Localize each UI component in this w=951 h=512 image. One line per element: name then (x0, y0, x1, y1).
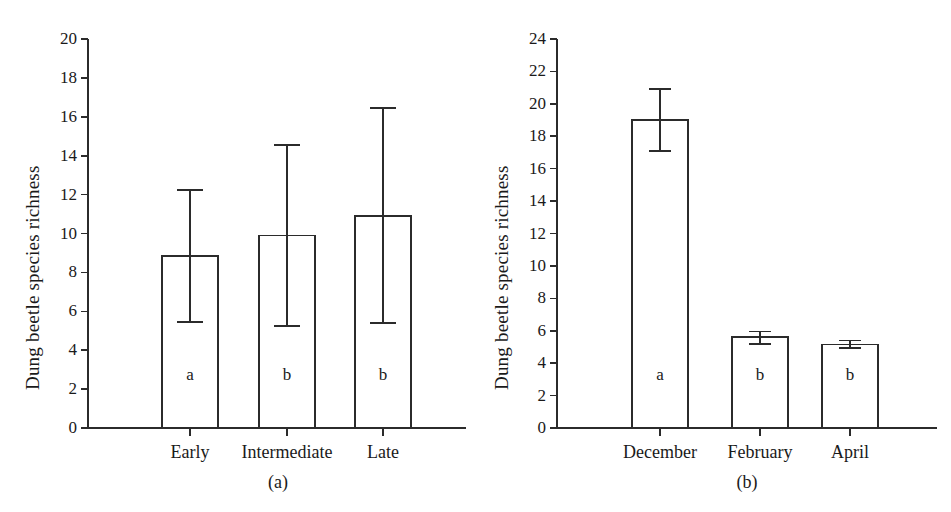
y-tick-label: 16 (60, 107, 77, 127)
y-tick-label: 12 (60, 185, 77, 205)
y-tick-label: 20 (60, 29, 77, 49)
x-tick-label: April (831, 442, 869, 463)
panel-caption-b: (b) (737, 472, 758, 493)
y-tick-label: 6 (69, 301, 78, 321)
x-tick-label: Late (367, 442, 399, 463)
y-tick-label: 6 (538, 321, 547, 341)
panel-caption-a: (a) (268, 472, 288, 493)
y-tick-label: 4 (538, 353, 547, 373)
significance-letter: b (846, 365, 855, 385)
y-tick-label: 14 (60, 146, 77, 166)
y-tick-label: 4 (69, 340, 78, 360)
x-tick-label: December (623, 442, 697, 463)
x-tick-label: February (728, 442, 793, 463)
y-tick-label: 0 (538, 418, 547, 438)
y-tick-label: 8 (69, 262, 78, 282)
y-tick-label: 16 (529, 159, 546, 179)
figure-canvas: Dung beetle species richness 02468101214… (0, 0, 951, 512)
significance-letter: b (756, 365, 765, 385)
y-tick-label: 0 (69, 418, 78, 438)
y-tick-label: 18 (60, 68, 77, 88)
y-tick-label: 12 (529, 224, 546, 244)
x-tick-label: Early (171, 442, 210, 463)
y-tick-label: 10 (529, 256, 546, 276)
significance-letter: b (379, 365, 388, 385)
significance-letter: b (283, 365, 292, 385)
y-tick-label: 8 (538, 288, 547, 308)
panel-a: Dung beetle species richness 02468101214… (0, 0, 476, 512)
y-tick-label: 14 (529, 191, 546, 211)
significance-letter: a (186, 365, 194, 385)
y-tick-label: 20 (529, 94, 546, 114)
panel-b-plot (475, 0, 951, 512)
y-tick-label: 24 (529, 29, 546, 49)
panel-b: Dung beetle species richness 02468101214… (475, 0, 951, 512)
x-tick-label: Intermediate (242, 442, 333, 463)
y-tick-label: 2 (538, 386, 547, 406)
y-tick-label: 2 (69, 379, 78, 399)
y-tick-label: 18 (529, 126, 546, 146)
y-tick-label: 10 (60, 224, 77, 244)
y-tick-label: 22 (529, 61, 546, 81)
significance-letter: a (656, 365, 664, 385)
